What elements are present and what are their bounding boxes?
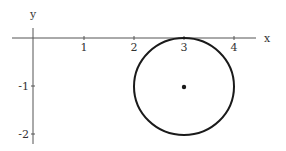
y-tick-label: -1 [18,80,29,93]
x-tick-label: 1 [81,41,88,54]
center-point [182,85,186,89]
x-tick-label: 2 [131,41,138,54]
chart: 1 2 3 4 -1 -2 x y [0,0,286,151]
x-tick-label: 4 [231,41,238,54]
x-tick-label: 3 [181,41,188,54]
x-axis-label: x [264,32,271,45]
y-tick-label: -2 [18,128,29,141]
y-axis-label: y [29,8,37,21]
